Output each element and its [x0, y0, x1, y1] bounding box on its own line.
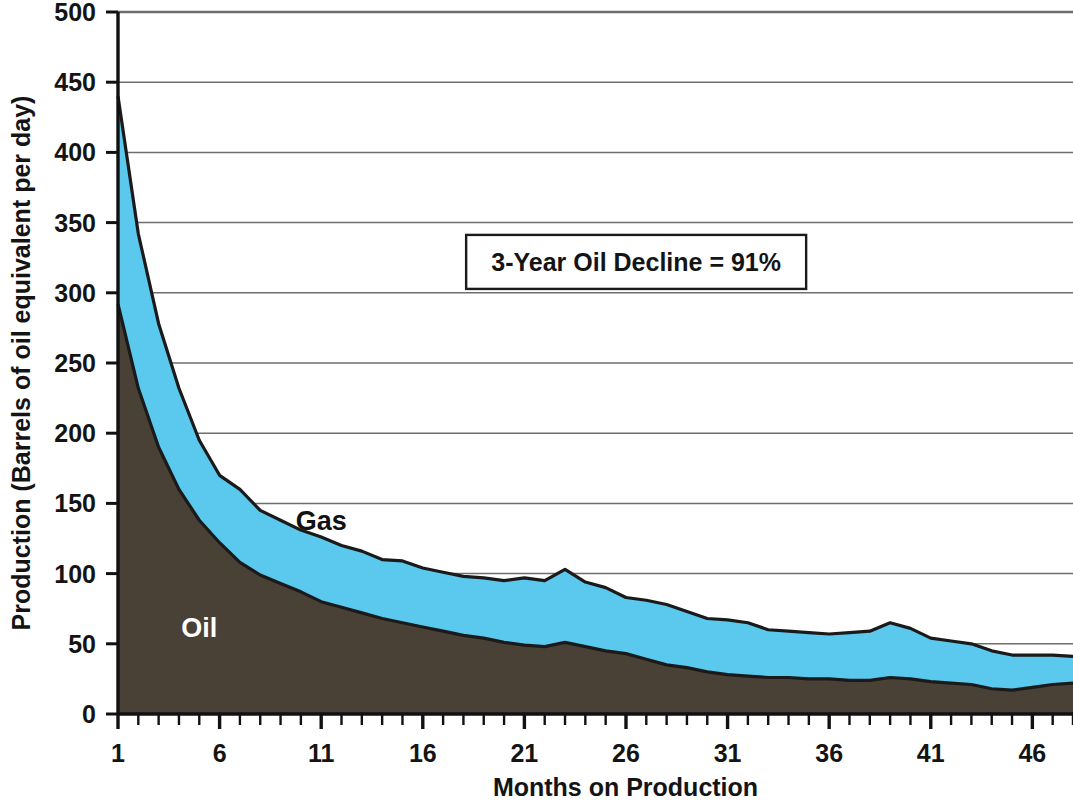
x-axis-tick-label: 21 [510, 739, 538, 767]
y-axis-title: Production (Barrels of oil equivalent pe… [7, 96, 35, 631]
x-axis-tick-label: 26 [612, 739, 640, 767]
x-axis-tick-label: 36 [815, 739, 843, 767]
chart-container: 050100150200250300350400450500 161116212… [0, 0, 1073, 801]
x-axis-tick-label: 31 [714, 739, 742, 767]
decline-callout-label: 3-Year Oil Decline = 91% [491, 248, 781, 276]
y-axis-tick-label: 50 [68, 630, 96, 658]
y-axis-tick-label: 200 [54, 419, 96, 447]
gas-series-label: Gas [296, 506, 347, 536]
decline-callout: 3-Year Oil Decline = 91% [466, 235, 806, 289]
x-axis-tick-label: 1 [111, 739, 125, 767]
stacked-area-chart: 050100150200250300350400450500 161116212… [0, 0, 1073, 801]
y-axis-tick-label: 250 [54, 349, 96, 377]
y-axis-tick-label: 300 [54, 279, 96, 307]
y-axis-tick-label: 100 [54, 560, 96, 588]
x-axis-tick-label: 16 [409, 739, 437, 767]
y-axis-tick-label: 150 [54, 489, 96, 517]
x-axis-tick-label: 46 [1018, 739, 1046, 767]
x-axis-tick-label: 11 [308, 739, 335, 767]
y-axis-tick-label: 0 [82, 700, 96, 728]
y-axis-tick-label: 350 [54, 209, 96, 237]
x-axis-tick-label: 41 [917, 739, 945, 767]
x-axis-title: Months on Production [493, 773, 758, 801]
y-axis-tick-label: 450 [54, 68, 96, 96]
y-axis-tick-label: 500 [54, 0, 96, 26]
y-axis-tick-label: 400 [54, 138, 96, 166]
x-axis-tick-label: 6 [213, 739, 227, 767]
oil-series-label: Oil [181, 613, 217, 643]
